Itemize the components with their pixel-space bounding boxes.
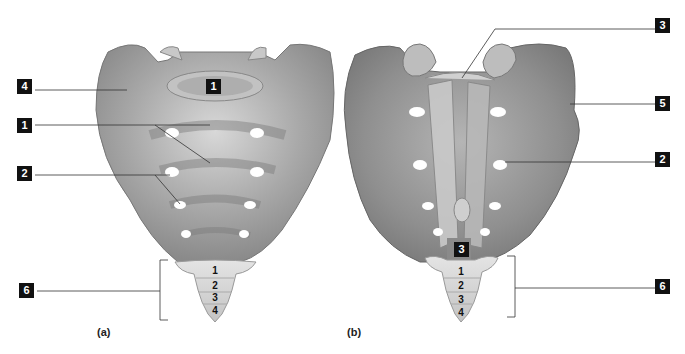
coccyx-a-segment-4: 4	[209, 305, 221, 316]
label-6-coccyx-b: 6	[655, 279, 670, 294]
coccyx-a-segment-1: 1	[209, 265, 221, 276]
label-5-lateral: 5	[655, 96, 670, 111]
coccyx-a-segment-2: 2	[209, 280, 221, 291]
coccyx-b-segment-3: 3	[455, 294, 467, 305]
coccyx-b-segment-1: 1	[455, 266, 467, 277]
label-2-posterior-foramina: 2	[655, 152, 670, 167]
label-3-sacral-canal: 3	[655, 18, 670, 33]
label-2-anterior-foramina: 2	[17, 166, 32, 181]
caption-b: (b)	[347, 326, 361, 338]
coccyx-b-segment-4: 4	[455, 307, 467, 318]
coccyx-b-segment-2: 2	[455, 280, 467, 291]
label-4-ala: 4	[17, 79, 32, 94]
coccyx-a-segment-3: 3	[209, 292, 221, 303]
caption-a: (a)	[97, 326, 110, 338]
label-1-body: 1	[17, 118, 32, 133]
label-1-base: 1	[206, 79, 221, 94]
label-3-sacral-hiatus: 3	[454, 242, 469, 257]
label-6-coccyx-a: 6	[19, 283, 34, 298]
diagram-canvas	[0, 0, 685, 354]
